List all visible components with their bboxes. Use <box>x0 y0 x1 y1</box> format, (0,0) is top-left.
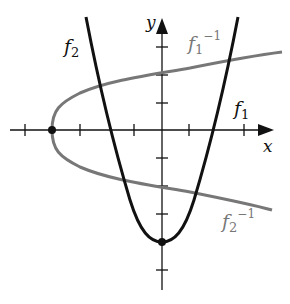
x-axis-label: x <box>263 136 273 156</box>
y-axis-label: y <box>145 12 156 32</box>
label-f1-inverse-sub: 1 <box>195 42 203 57</box>
label-f1-inverse: f1−1 <box>186 29 221 57</box>
x-axis-arrow-icon <box>258 124 274 136</box>
label-f2-inverse-sup: −1 <box>237 207 255 221</box>
label-f2: f2 <box>62 35 79 60</box>
diagram: x y f2 f1 f1−1 f2−1 <box>0 0 290 304</box>
label-f1-inverse-sup: −1 <box>203 29 221 43</box>
inverse-vertex-point <box>48 126 56 134</box>
vertex-point <box>158 238 166 246</box>
x-axis <box>10 124 262 136</box>
label-f1-sub: 1 <box>241 107 249 122</box>
label-f2-sub: 2 <box>71 45 79 60</box>
y-axis-arrow-icon <box>156 18 168 34</box>
label-f2-inverse: f2−1 <box>220 207 255 235</box>
label-f1: f1 <box>232 97 249 122</box>
label-f2-inverse-sub: 2 <box>229 220 237 235</box>
